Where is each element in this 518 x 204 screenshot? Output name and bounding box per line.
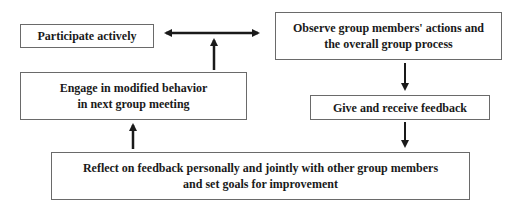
connector-arrows	[0, 0, 518, 204]
